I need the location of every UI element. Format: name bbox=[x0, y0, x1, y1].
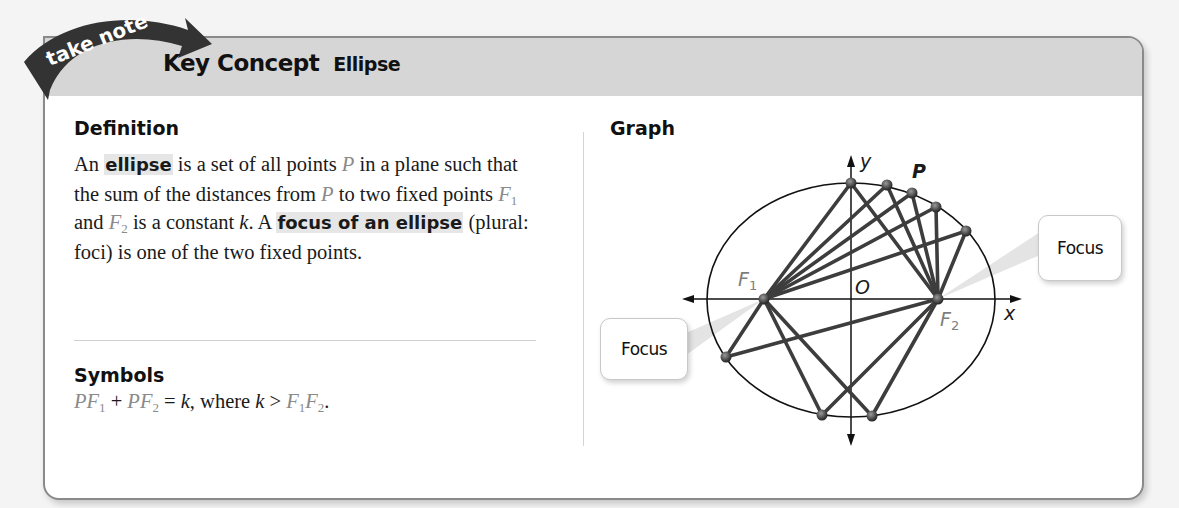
title-topic: Ellipse bbox=[333, 53, 400, 75]
page-title: Key ConceptEllipse bbox=[163, 50, 400, 76]
term-focus: focus of an ellipse bbox=[276, 212, 463, 233]
definition-heading: Definition bbox=[74, 117, 179, 139]
y-axis-label: y bbox=[860, 150, 871, 172]
definition-text: An ellipse is a set of all points P in a… bbox=[74, 150, 544, 266]
title-key-concept: Key Concept bbox=[163, 50, 319, 76]
focus-callout-left: Focus bbox=[600, 318, 688, 380]
f1-label: F1 bbox=[738, 268, 757, 290]
point-p-label: P bbox=[912, 160, 926, 182]
graph-heading: Graph bbox=[610, 117, 675, 139]
section-divider bbox=[74, 340, 536, 341]
symbols-heading: Symbols bbox=[74, 364, 164, 386]
focus-callout-right: Focus bbox=[1038, 215, 1122, 281]
origin-label: O bbox=[855, 276, 870, 298]
column-divider bbox=[583, 132, 584, 446]
term-ellipse: ellipse bbox=[104, 154, 173, 175]
symbols-formula: PF1 + PF2 = k, where k > F1F2. bbox=[74, 390, 329, 413]
f2-label: F2 bbox=[940, 308, 959, 330]
x-axis-label: x bbox=[1004, 302, 1015, 324]
